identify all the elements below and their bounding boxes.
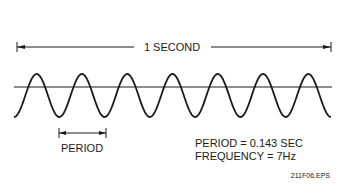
period-value-text: PERIOD = 0.143 SEC xyxy=(195,137,303,149)
period-left-arrowhead-icon xyxy=(59,131,66,135)
right-arrowhead-icon xyxy=(323,45,331,49)
left-arrowhead-icon xyxy=(17,45,25,49)
period-dimension xyxy=(59,128,106,138)
figure-id-label: 211F06.EPS xyxy=(291,172,331,179)
frequency-value-text: FREQUENCY = 7Hz xyxy=(195,150,296,162)
sine-wave-diagram: 1 SECOND PERIOD PERIOD = 0.143 SEC FREQU… xyxy=(0,0,351,195)
one-second-label: 1 SECOND xyxy=(144,41,200,53)
period-right-arrowhead-icon xyxy=(99,131,106,135)
period-label: PERIOD xyxy=(61,142,103,154)
sine-wave xyxy=(14,74,331,117)
